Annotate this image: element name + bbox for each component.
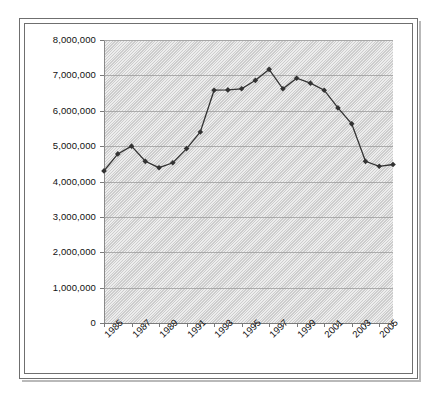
chart-figure: 8,000,0007,000,0006,000,0005,000,0004,00… <box>0 0 437 397</box>
data-series-line <box>0 0 437 397</box>
data-point-marker <box>308 80 314 86</box>
data-point-marker <box>156 165 162 171</box>
data-point-marker <box>211 87 217 93</box>
data-point-marker <box>363 159 369 165</box>
data-point-marker <box>376 163 382 169</box>
data-point-marker <box>390 162 396 168</box>
data-point-marker <box>225 87 231 93</box>
line-chart: 8,000,0007,000,0006,000,0005,000,0004,00… <box>0 0 437 397</box>
series-line <box>104 69 393 170</box>
